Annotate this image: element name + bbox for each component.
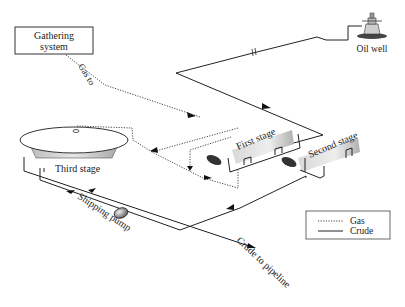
- crude-flow-arrow-icon: [262, 103, 271, 109]
- gathering-system-label-2: system: [40, 41, 68, 52]
- legend: Gas Crude: [306, 211, 390, 239]
- gas-to-label: Gas to: [76, 62, 97, 87]
- gathering-system-box: Gathering system: [15, 27, 93, 54]
- gathering-system-label-1: Gathering: [34, 30, 74, 41]
- third-stage-label: Third stage: [55, 163, 101, 174]
- crude-arrow-icon: [226, 204, 234, 210]
- crude-to-pipeline-label: Crude to pipeline: [235, 234, 294, 290]
- oil-well-label: Oil well: [357, 44, 388, 54]
- legend-gas-label: Gas: [350, 216, 365, 226]
- legend-crude-label: Crude: [350, 226, 373, 236]
- separation-diagram: Gathering system Gas to Oil well First s…: [0, 0, 405, 307]
- gas-arrow-icon: [187, 166, 193, 171]
- gas-line-first-stage: [152, 128, 238, 188]
- third-stage-tank: [20, 127, 128, 158]
- gas-arrow-icon: [150, 147, 158, 153]
